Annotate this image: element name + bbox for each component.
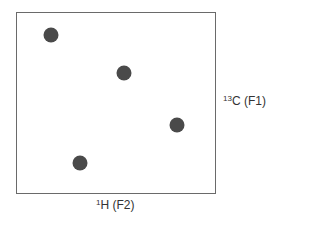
f2-axis-label: 1H (F2) — [96, 198, 134, 212]
correlation-peak-3 — [170, 118, 185, 133]
correlation-peak-4 — [73, 156, 88, 171]
correlation-peak-1 — [44, 28, 59, 43]
f1-axis-label: 13C (F1) — [223, 94, 266, 108]
f1-isotope-mass: 13 — [223, 94, 232, 103]
f1-dimension: (F1) — [244, 94, 266, 108]
f1-nucleus: C — [232, 94, 241, 108]
f2-dimension: (F2) — [112, 198, 134, 212]
correlation-peak-2 — [117, 66, 132, 81]
f2-nucleus: H — [100, 198, 109, 212]
